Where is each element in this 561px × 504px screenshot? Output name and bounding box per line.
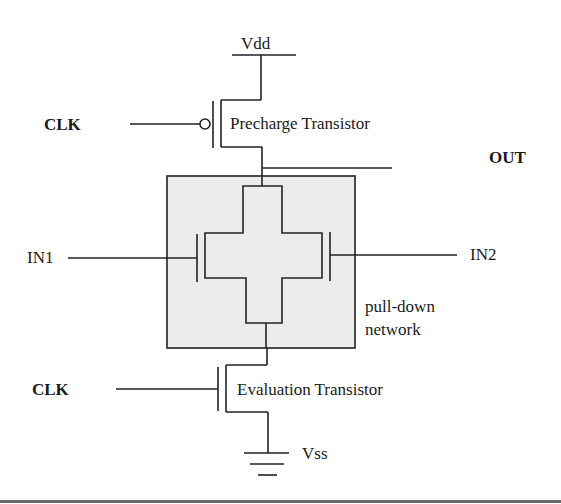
in1-label: IN1 — [27, 249, 53, 266]
ground-icon — [244, 412, 289, 475]
output-node — [262, 147, 392, 176]
vdd-label: Vdd — [241, 35, 270, 52]
evaluation-transistor-label: Evaluation Transistor — [237, 381, 383, 398]
vss-label: Vss — [302, 445, 328, 462]
in2-label: IN2 — [470, 246, 496, 263]
clk-evaluation-label: CLK — [32, 381, 69, 398]
precharge-transistor-label: Precharge Transistor — [230, 115, 370, 132]
pdn-label-line1: pull-down — [365, 298, 435, 315]
clk-precharge-label: CLK — [44, 116, 81, 133]
out-label: OUT — [489, 149, 526, 166]
pdn-label-line2: network — [365, 321, 421, 338]
bottom-divider — [0, 500, 561, 503]
vdd-rail — [232, 55, 296, 100]
